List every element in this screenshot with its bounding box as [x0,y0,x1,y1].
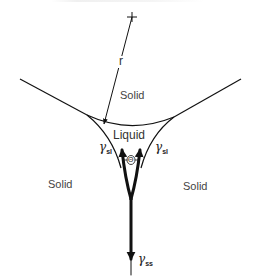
liquid-top-meniscus [87,115,174,126]
solid-right-label: Solid [183,181,207,192]
gamma-subscript: sl [162,148,168,155]
liquid-label: Liquid [113,129,145,141]
gamma-subscript: ss [145,260,153,267]
solid-top-label: Solid [120,90,144,101]
upper-right-boundary [174,79,241,117]
radius-label: r [119,55,123,67]
gamma-sl-left-label: γsl [99,141,112,155]
radius-arrow [104,17,132,124]
gamma-ss-label: γss [138,253,153,267]
solid-left-label: Solid [48,179,72,190]
theta-label: Θ [128,156,133,163]
gamma-sl-right-label: γsl [155,141,168,155]
gamma-subscript: sl [106,148,112,155]
upper-left-boundary [20,79,87,115]
